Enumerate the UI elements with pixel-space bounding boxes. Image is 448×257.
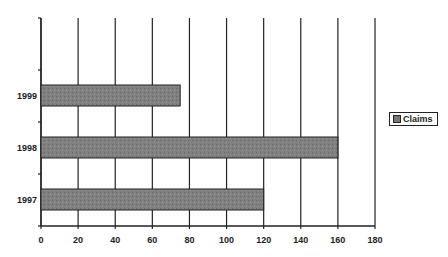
x-tick-label-0: 0 [38,235,43,245]
y-tick-label-1997: 1997 [17,195,37,205]
legend-swatch-claims [393,115,401,123]
x-tick-label-160: 160 [330,235,345,245]
bar-1999 [41,85,180,106]
y-tick-label-1999: 1999 [17,91,37,101]
bar-1997 [41,189,264,210]
bar-1998 [41,137,338,158]
y-tick-label-1998: 1998 [17,143,37,153]
x-tick-label-60: 60 [147,235,157,245]
legend-label-claims: Claims [403,114,433,124]
x-tick-label-140: 140 [293,235,308,245]
bar-chart: 020406080100120140160180199719981999 [0,0,448,257]
x-tick-label-20: 20 [73,235,83,245]
x-tick-label-120: 120 [256,235,271,245]
x-tick-label-40: 40 [110,235,120,245]
x-tick-label-80: 80 [184,235,194,245]
chart-legend: Claims [389,112,438,126]
x-tick-label-100: 100 [219,235,234,245]
x-tick-label-180: 180 [367,235,382,245]
